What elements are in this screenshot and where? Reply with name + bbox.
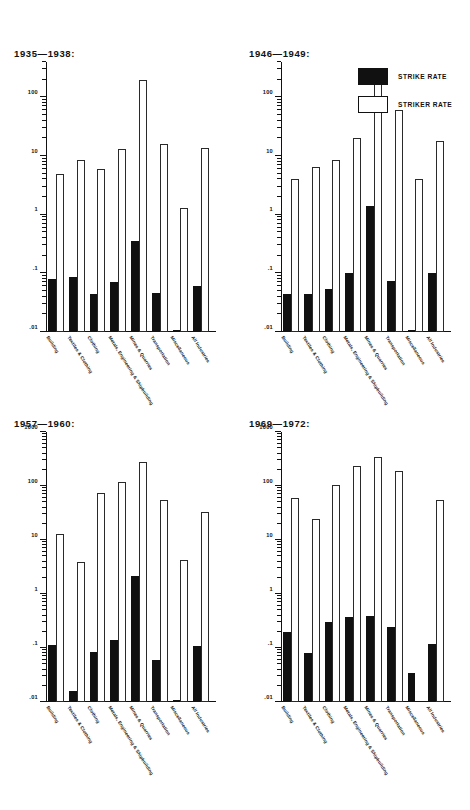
bar-strike-rate[interactable]	[304, 294, 312, 332]
bar-strike-rate[interactable]	[408, 330, 416, 332]
bar-striker-rate[interactable]	[395, 110, 403, 332]
bar-group[interactable]: Clothing	[88, 432, 109, 702]
x-axis-label: Clothing	[322, 335, 337, 354]
bar-group[interactable]: Miscellaneous	[171, 432, 192, 702]
bar-striker-rate[interactable]	[77, 562, 85, 703]
bar-group[interactable]: Textiles & Clothing	[67, 62, 88, 332]
bar-group[interactable]: Building	[281, 432, 302, 702]
bar-strike-rate[interactable]	[366, 206, 374, 332]
bar-group[interactable]: Metals, Engineering & Shipbuilding	[108, 432, 129, 702]
bar-strike-rate[interactable]	[345, 617, 353, 702]
bar-strike-rate[interactable]	[110, 640, 118, 702]
bar-striker-rate[interactable]	[56, 174, 64, 332]
x-axis-label: Metals, Engineering & Shipbuilding	[108, 335, 155, 406]
bar-strike-rate[interactable]	[345, 273, 353, 332]
plot-area: 1000100101.1.01 BuildingTextiles & Cloth…	[281, 432, 447, 702]
bar-group[interactable]: Metals, Engineering & Shipbuilding	[108, 62, 129, 332]
bar-striker-rate[interactable]	[332, 160, 340, 332]
bar-strike-rate[interactable]	[152, 293, 160, 332]
bar-striker-rate[interactable]	[118, 482, 126, 702]
y-tick-label: .01	[264, 694, 273, 700]
bar-strike-rate[interactable]	[90, 294, 98, 332]
bar-strike-rate[interactable]	[69, 277, 77, 332]
bar-group[interactable]: Clothing	[88, 62, 109, 332]
bar-striker-rate[interactable]	[312, 167, 320, 332]
bar-group[interactable]: All Industries	[191, 432, 212, 702]
bar-striker-rate[interactable]	[436, 500, 444, 702]
bar-strike-rate[interactable]	[428, 273, 436, 332]
bar-strike-rate[interactable]	[325, 289, 333, 332]
bar-striker-rate[interactable]	[201, 148, 209, 332]
bar-striker-rate[interactable]	[160, 144, 168, 332]
bar-group[interactable]: Building	[46, 432, 67, 702]
bar-group[interactable]: Transportation	[150, 62, 171, 332]
y-tick-label: 1	[35, 586, 38, 592]
bar-striker-rate[interactable]	[139, 80, 147, 332]
bar-striker-rate[interactable]	[291, 498, 299, 702]
bar-group[interactable]: All Industries	[426, 432, 447, 702]
bar-striker-rate[interactable]	[56, 534, 64, 702]
bar-strike-rate[interactable]	[48, 645, 56, 702]
bar-strike-rate[interactable]	[110, 282, 118, 332]
y-tick-label: 10	[266, 532, 273, 538]
bar-striker-rate[interactable]	[332, 485, 340, 702]
bar-group[interactable]: Textiles & Clothing	[302, 432, 323, 702]
bar-striker-rate[interactable]	[77, 160, 85, 332]
x-axis-label: Building	[45, 335, 59, 354]
bar-strike-rate[interactable]	[131, 241, 139, 332]
bar-strike-rate[interactable]	[173, 700, 181, 702]
bar-striker-rate[interactable]	[180, 208, 188, 332]
bar-group[interactable]: Mines & Quarries	[364, 432, 385, 702]
bar-striker-rate[interactable]	[353, 466, 361, 702]
bar-striker-rate[interactable]	[312, 519, 320, 702]
bar-strike-rate[interactable]	[387, 627, 395, 702]
bar-strike-rate[interactable]	[408, 673, 416, 702]
bar-strike-rate[interactable]	[193, 646, 201, 702]
bar-strike-rate[interactable]	[304, 653, 312, 702]
bar-strike-rate[interactable]	[325, 622, 333, 702]
bar-group[interactable]: Miscellaneous	[171, 62, 192, 332]
bar-striker-rate[interactable]	[160, 500, 168, 702]
bar-group[interactable]: Textiles & Clothing	[302, 62, 323, 332]
legend-swatch-striker-icon	[358, 96, 388, 113]
bar-group[interactable]: Metals, Engineering & Shipbuilding	[343, 432, 364, 702]
bar-striker-rate[interactable]	[374, 457, 382, 702]
bar-group[interactable]: Miscellaneous	[406, 432, 427, 702]
bar-group[interactable]: Mines & Quarries	[129, 432, 150, 702]
bar-group[interactable]: Transportation	[385, 432, 406, 702]
bar-strike-rate[interactable]	[90, 652, 98, 702]
y-tick-label: .1	[268, 640, 273, 646]
bar-group[interactable]: Mines & Quarries	[129, 62, 150, 332]
bar-striker-rate[interactable]	[180, 560, 188, 702]
bar-group[interactable]: Transportation	[150, 432, 171, 702]
bar-strike-rate[interactable]	[193, 286, 201, 332]
bar-strike-rate[interactable]	[69, 691, 77, 702]
bar-group[interactable]: Building	[281, 62, 302, 332]
bar-striker-rate[interactable]	[97, 169, 105, 332]
bar-striker-rate[interactable]	[97, 493, 105, 702]
bar-striker-rate[interactable]	[139, 462, 147, 702]
bar-striker-rate[interactable]	[201, 512, 209, 702]
bar-group[interactable]: Building	[46, 62, 67, 332]
bar-strike-rate[interactable]	[283, 632, 291, 702]
x-axis-label: All Industries	[426, 705, 446, 734]
bar-striker-rate[interactable]	[353, 138, 361, 332]
bar-striker-rate[interactable]	[436, 141, 444, 332]
bar-strike-rate[interactable]	[387, 281, 395, 332]
bar-striker-rate[interactable]	[395, 471, 403, 702]
bar-striker-rate[interactable]	[118, 149, 126, 332]
bar-strike-rate[interactable]	[428, 644, 436, 702]
x-axis-label: Mines & Quarries	[128, 705, 153, 741]
bar-group[interactable]: Clothing	[323, 432, 344, 702]
bar-strike-rate[interactable]	[48, 279, 56, 332]
bar-strike-rate[interactable]	[152, 660, 160, 702]
bar-striker-rate[interactable]	[415, 179, 423, 332]
bar-strike-rate[interactable]	[283, 294, 291, 332]
bar-strike-rate[interactable]	[366, 616, 374, 703]
bar-group[interactable]: Textiles & Clothing	[67, 432, 88, 702]
bar-striker-rate[interactable]	[291, 179, 299, 332]
bar-group[interactable]: All Industries	[191, 62, 212, 332]
bar-strike-rate[interactable]	[173, 330, 181, 332]
bar-group[interactable]: Clothing	[323, 62, 344, 332]
bar-strike-rate[interactable]	[131, 576, 139, 702]
